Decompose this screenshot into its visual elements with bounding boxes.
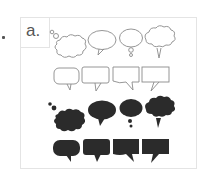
- square-speech-icon: [142, 67, 169, 91]
- thought-oval-icon: [120, 29, 143, 57]
- filled-oval-speech-icon: [88, 101, 116, 127]
- row-2-outline: [54, 67, 169, 91]
- row-3-filled: [48, 96, 175, 132]
- row-1-outline: [50, 26, 175, 58]
- oval-speech-icon: [88, 31, 116, 56]
- row-4-filled: [53, 139, 169, 163]
- filled-rounded-rect-speech-icon: [53, 140, 80, 162]
- filled-thought-cloud-icon: [48, 102, 85, 131]
- filled-rect-speech-icon: [83, 139, 110, 162]
- rounded-rect-speech-icon: [54, 68, 79, 90]
- filled-square-speech-icon: [142, 139, 169, 163]
- speech-bubble-icons: [0, 0, 200, 174]
- rect-speech-icon: [82, 67, 109, 91]
- filled-thought-oval-icon: [120, 99, 143, 128]
- filled-cloud-speech-icon: [145, 96, 175, 128]
- filled-wavy-rect-speech-icon: [113, 139, 139, 162]
- thought-cloud-icon: [50, 30, 86, 57]
- wavy-rect-speech-icon: [113, 67, 139, 90]
- cloud-speech-icon: [145, 26, 175, 58]
